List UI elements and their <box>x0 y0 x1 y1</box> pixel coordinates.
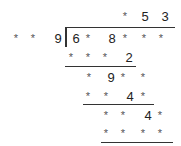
step5-digit-4: * <box>158 128 162 139</box>
step2-digit-3: * <box>121 72 125 83</box>
dividend-digit-3: 8 <box>108 32 115 45</box>
step5-digit-2: * <box>121 128 125 139</box>
quotient-digit-3: 3 <box>161 10 168 23</box>
step4-digit-3: 4 <box>144 109 151 122</box>
division-bracket <box>65 27 67 47</box>
step5-digit-1: * <box>104 128 108 139</box>
step3-digit-2: * <box>104 91 108 102</box>
step3-digit-1: * <box>86 91 90 102</box>
dividend-digit-2: * <box>86 33 90 44</box>
step3-digit-3: 4 <box>126 90 133 103</box>
division-bar <box>65 27 175 28</box>
step1-digit-3: * <box>103 52 107 63</box>
quotient-digit-1: * <box>123 11 127 22</box>
divisor-digit-3: 9 <box>54 32 61 45</box>
divisor-digit-2: * <box>31 33 35 44</box>
step2-digit-1: * <box>87 72 91 83</box>
step3-digit-4: * <box>141 91 145 102</box>
step1-digit-4: 2 <box>125 51 132 64</box>
step1-digit-1: * <box>69 52 73 63</box>
subtraction-line-3 <box>101 142 173 143</box>
step4-digit-2: * <box>121 110 125 121</box>
subtraction-line-2 <box>83 104 154 105</box>
step2-digit-4: * <box>141 72 145 83</box>
step5-digit-3: * <box>141 128 145 139</box>
step4-digit-4: * <box>158 110 162 121</box>
step1-digit-2: * <box>86 52 90 63</box>
step4-digit-1: * <box>104 110 108 121</box>
dividend-digit-6: * <box>159 33 163 44</box>
subtraction-line-1 <box>65 66 136 67</box>
quotient-digit-2: 5 <box>141 10 148 23</box>
divisor-digit-1: * <box>14 33 18 44</box>
step2-digit-2: 9 <box>107 71 114 84</box>
dividend-digit-5: * <box>142 33 146 44</box>
dividend-digit-4: * <box>123 33 127 44</box>
dividend-digit-1: 6 <box>72 32 79 45</box>
